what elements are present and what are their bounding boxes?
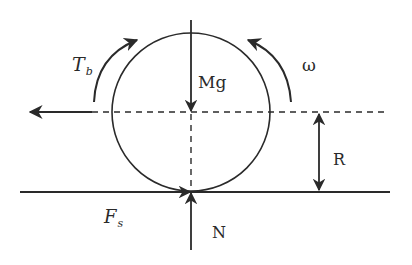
- radius-label: R: [333, 152, 345, 168]
- angular-velocity-arc: [248, 40, 291, 102]
- free-body-diagram: Tb ω Mg R Fs N: [0, 0, 412, 265]
- friction-label: Fs: [104, 208, 123, 226]
- normal-force-label: N: [212, 225, 226, 241]
- weight-label: Mg: [198, 74, 226, 91]
- friction-symbol: F: [104, 206, 117, 227]
- braking-torque-arc: [94, 40, 137, 102]
- angular-velocity-label: ω: [302, 57, 316, 74]
- diagram-graphics: [0, 0, 412, 265]
- braking-torque-symbol: T: [72, 53, 85, 75]
- friction-subscript: s: [118, 217, 124, 230]
- braking-torque-subscript: b: [86, 65, 93, 78]
- braking-torque-label: Tb: [72, 55, 93, 74]
